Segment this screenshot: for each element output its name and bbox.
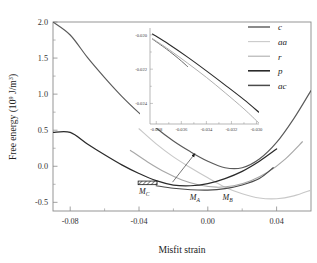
legend-label-r: r: [278, 52, 282, 62]
y-tick-label-4: 1.5: [38, 54, 48, 63]
x-tick-label-1: -0.04: [130, 217, 147, 226]
inset-x-tick-label-4: -0.030: [251, 127, 264, 132]
y-axis-title-main: Free energy (10: [7, 99, 19, 160]
y-axis-ticks: [53, 22, 58, 202]
annotation-subscript: B: [229, 197, 233, 203]
inset-x-tick-label-2: -0.034: [200, 127, 213, 132]
x-axis-title: Misfit strain: [158, 244, 205, 255]
inset-y-tick-label-0: -0.024: [135, 101, 148, 106]
annotation-M_A: MA: [189, 193, 201, 204]
annotation-M_C: MC: [138, 187, 150, 198]
y-axis-title-units: J/m: [7, 80, 18, 97]
free-energy-vs-misfit-strain-chart: -0.50.00.51.01.52.0 -0.08-0.040.000.04 M…: [0, 0, 317, 263]
x-axis-tick-labels: -0.08-0.040.000.04: [62, 217, 284, 226]
legend-label-aa: aa: [278, 37, 288, 47]
annotation-subscript: A: [196, 197, 201, 203]
hatched-box: [138, 181, 157, 185]
x-tick-label-2: 0.00: [201, 217, 215, 226]
inset-x-tick-label-3: -0.032: [225, 127, 238, 132]
hatched-region-group: [138, 181, 157, 185]
y-axis-title-close: ): [7, 74, 19, 77]
inset-y-tick-label-1: -0.022: [135, 67, 148, 72]
y-tick-label-1: 0.0: [38, 162, 48, 171]
legend-label-c: c: [278, 22, 282, 32]
y-tick-label-0: -0.5: [35, 198, 48, 207]
inset-background: [140, 24, 262, 128]
y-tick-label-5: 2.0: [38, 18, 48, 27]
annotation-subscript: C: [146, 191, 150, 197]
inset-axes: -0.024-0.022-0.020 -0.038-0.036-0.034-0.…: [135, 24, 263, 132]
legend-label-p: p: [277, 66, 283, 76]
y-tick-label-2: 0.5: [38, 126, 48, 135]
curve-p: [53, 132, 277, 186]
y-axis-title: Free energy (109 J/m3): [7, 74, 19, 160]
svg-text:Free energy (109 J/m3): Free energy (109 J/m3): [7, 74, 19, 160]
inset-x-tick-label-1: -0.036: [175, 127, 188, 132]
y-axis-tick-labels: -0.50.00.51.01.52.0: [35, 18, 48, 207]
inset-x-tick-label-0: -0.038: [150, 127, 163, 132]
x-tick-label-0: -0.08: [62, 217, 79, 226]
x-tick-label-3: 0.04: [269, 217, 283, 226]
legend-label-ac: ac: [278, 81, 287, 91]
x-axis-ticks: [70, 207, 276, 212]
figure-container: -0.50.00.51.01.52.0 -0.08-0.040.000.04 M…: [0, 0, 317, 263]
y-tick-label-3: 1.0: [38, 90, 48, 99]
annotation-M_B: MB: [222, 193, 234, 204]
inset-y-tick-label-2: -0.020: [135, 33, 148, 38]
